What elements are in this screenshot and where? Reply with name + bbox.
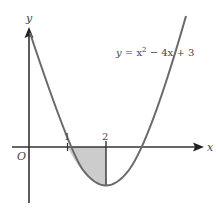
- tick-label-2: 2: [102, 131, 108, 142]
- equation-label: y = x2 − 4x + 3: [115, 46, 194, 58]
- tick-label-1: 1: [64, 131, 70, 142]
- graph-canvas: y x O 1 2 y = x2 − 4x + 3: [0, 0, 219, 213]
- origin-label: O: [17, 150, 26, 163]
- x-axis-label: x: [207, 141, 214, 154]
- y-axis-label: y: [25, 12, 33, 25]
- parabola: [30, 16, 186, 186]
